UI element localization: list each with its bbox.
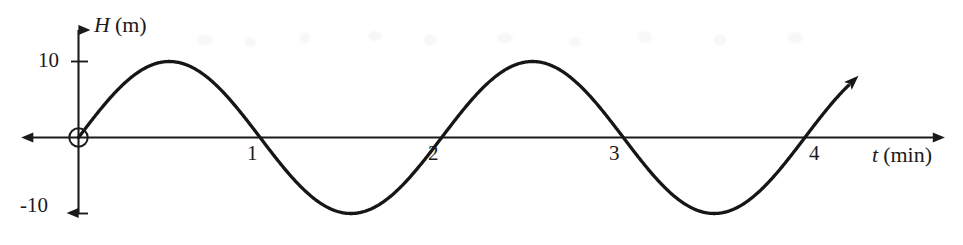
y-tick-label-10: 10 xyxy=(38,50,59,71)
x-tick-label-4: 4 xyxy=(809,143,820,164)
y-axis-label: H(m) xyxy=(94,14,147,36)
graph-figure: H(m) t(min) 10 -10 1 2 3 4 xyxy=(0,0,963,245)
y-axis-unit: (m) xyxy=(115,12,147,37)
x-axis-variable: t xyxy=(872,142,883,167)
x-tick-label-1: 1 xyxy=(247,143,258,164)
x-axis-unit: (min) xyxy=(883,142,932,167)
x-tick-label-2: 2 xyxy=(428,143,439,164)
y-tick-label-neg-10: -10 xyxy=(20,195,48,216)
x-axis-label: t(min) xyxy=(872,144,932,166)
y-axis-variable: H xyxy=(94,12,115,37)
x-tick-label-3: 3 xyxy=(609,143,620,164)
